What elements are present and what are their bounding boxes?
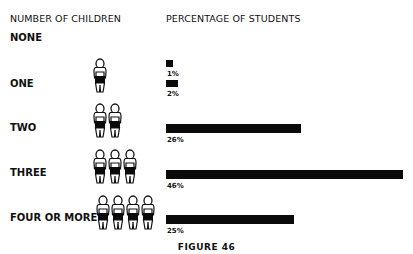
child-figure-icon (111, 195, 125, 231)
child-figure-icon (126, 195, 140, 231)
child-figure-icon (93, 149, 107, 185)
category-label-three: THREE (10, 167, 47, 178)
value-label-none: 1% (167, 70, 179, 78)
bar-none (166, 60, 173, 67)
children-icons-one (93, 58, 108, 94)
value-label-two: 26% (167, 136, 184, 144)
category-label-two: TWO (10, 122, 36, 133)
child-figure-icon (108, 103, 122, 139)
figure-caption: FIGURE 46 (0, 242, 413, 252)
child-figure-icon (93, 58, 107, 94)
bar-four-or-more (166, 215, 294, 224)
bar-one (166, 80, 178, 87)
bar-two (166, 124, 301, 133)
value-label-four-or-more: 25% (167, 227, 184, 235)
category-label-one: ONE (10, 78, 34, 89)
child-figure-icon (93, 103, 107, 139)
children-icons-two (93, 103, 123, 139)
children-icons-four-or-more (96, 195, 156, 231)
child-figure-icon (108, 149, 122, 185)
bar-three (166, 170, 403, 179)
x-axis-header: PERCENTAGE OF STUDENTS (166, 13, 301, 24)
children-icons-three (93, 149, 138, 185)
value-label-one: 2% (167, 90, 179, 98)
category-label-none: NONE (10, 32, 42, 43)
child-figure-icon (96, 195, 110, 231)
category-label-four-or-more: FOUR OR MORE (10, 212, 97, 223)
child-figure-icon (141, 195, 155, 231)
value-label-three: 46% (167, 182, 184, 190)
child-figure-icon (123, 149, 137, 185)
y-axis-header: NUMBER OF CHILDREN (10, 13, 121, 24)
